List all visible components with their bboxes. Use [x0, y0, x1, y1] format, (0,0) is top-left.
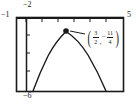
- x-denominator: 2: [94, 39, 97, 45]
- open-paren: (: [87, 28, 90, 47]
- vertex-point-marker: [63, 28, 69, 34]
- vertex-coordinate-label: ( 3 2 , − 11 4 ): [86, 28, 120, 47]
- x-numerator: 3: [94, 30, 97, 36]
- y-denominator: 4: [109, 39, 112, 45]
- close-paren: ): [115, 28, 118, 47]
- y-axis-max-label: −2: [23, 1, 32, 9]
- y-coordinate-fraction: 11 4: [107, 30, 114, 45]
- x-coordinate-fraction: 3 2: [92, 30, 99, 45]
- y-numerator: 11: [107, 30, 113, 36]
- graph-canvas: [0, 0, 136, 104]
- graph-figure: −1 5 −2 −6 ( 3 2 , − 11 4 ): [0, 0, 136, 104]
- x-axis-max-label: 5: [127, 11, 131, 19]
- y-axis-min-label: −6: [23, 92, 32, 100]
- x-axis-min-label: −1: [1, 11, 10, 19]
